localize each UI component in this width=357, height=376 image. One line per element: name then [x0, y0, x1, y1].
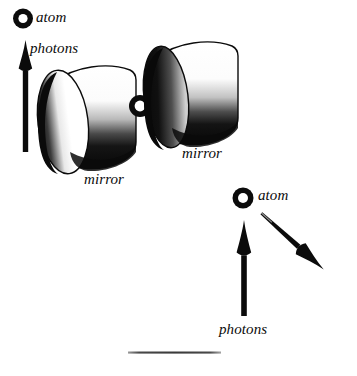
up-arrow-icon-top — [19, 40, 33, 152]
label-photons-top: photons — [30, 41, 78, 56]
label-photons-bottom: photons — [219, 322, 267, 337]
atom-ring-icon-bottom — [233, 188, 254, 209]
up-arrow-icon-bottom — [237, 220, 252, 316]
illustration-canvas — [0, 0, 357, 376]
figure-root: atom photons mirror mirror atom photons — [0, 0, 357, 376]
label-atom-top: atom — [36, 10, 66, 25]
mirror-right-cylinder — [138, 42, 238, 150]
atom-ring-icon-top — [13, 9, 33, 29]
mirror-left-cylinder — [32, 66, 136, 177]
label-atom-bottom: atom — [258, 188, 288, 203]
down-right-arrow-icon — [256, 208, 328, 275]
label-mirror-right: mirror — [182, 146, 222, 161]
label-mirror-left: mirror — [84, 172, 124, 187]
horizontal-rule — [128, 352, 221, 354]
